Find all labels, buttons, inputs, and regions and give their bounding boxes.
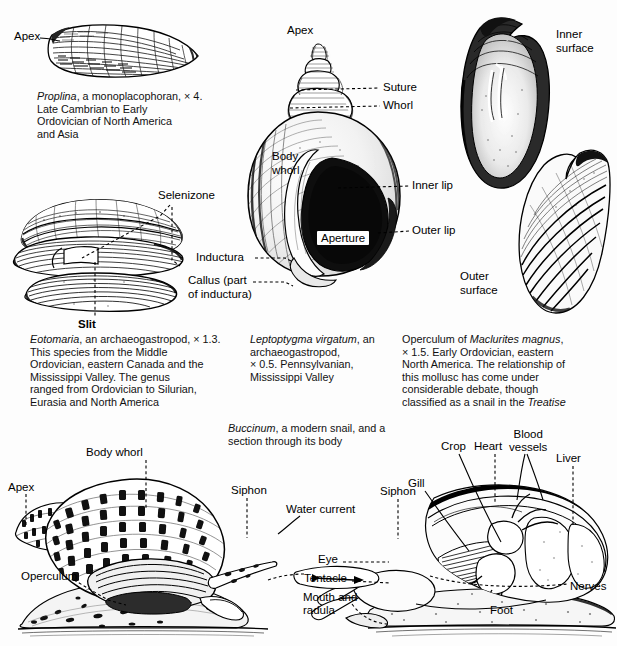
caption-maclurites-l1-pre: Operculum of [402, 333, 470, 345]
label-leptoptygma-apex: Apex [287, 24, 313, 37]
leader-tentacle [352, 577, 392, 587]
caption-leptoptygma-l3: × 0.5. Pennsylvanian, [250, 358, 400, 371]
leader-buccinum-siphon-left [242, 498, 252, 540]
caption-maclurites-l6-pre: classified as a snail in the [402, 396, 527, 408]
label-blood-vessels-l1: Blood [509, 428, 547, 441]
leader-suture [296, 84, 382, 92]
leader-whorl [290, 102, 382, 110]
label-buccinum-apex: Apex [8, 481, 34, 494]
label-mouth-radula: Mouth and radula [303, 591, 357, 617]
caption-eotomaria: Eotomaria, an archaeogastropod, × 1.3. T… [30, 333, 240, 409]
label-buccinum-body-whorl: Body whorl [86, 446, 143, 459]
label-body-whorl: Body whorl [272, 150, 299, 177]
leader-buccinum-body-whorl [140, 460, 152, 512]
label-blood-vessels: Blood vessels [509, 428, 547, 453]
caption-maclurites-l3: North America. The relationship of [402, 358, 617, 371]
proplina-illustration [8, 14, 208, 94]
label-suture: Suture [383, 81, 417, 94]
operculum-outer-illustration [510, 145, 617, 320]
label-body-whorl-l1: Body [272, 150, 299, 164]
label-callus-l2: of inductura) [188, 288, 252, 302]
caption-eotomaria-l3: Ordovician, eastern Canada and the [30, 358, 240, 371]
leader-selenizone [62, 200, 184, 276]
label-nerves: Nerves [570, 580, 606, 593]
label-tentacle: Tentacle [304, 572, 347, 585]
label-buccinum-operculum: Operculum [21, 570, 77, 583]
leader-slit [90, 262, 100, 318]
leader-inner-lip [338, 183, 412, 191]
label-heart: Heart [474, 440, 502, 453]
caption-maclurites-treatise: Treatise [527, 396, 565, 408]
caption-proplina: Proplina, a monoplacophoran, × 4. Late C… [37, 90, 252, 140]
label-buccinum-siphon-left: Siphon [231, 484, 267, 497]
figure-plate: Apex Proplina, a monoplacophoran, × 4. L… [0, 0, 617, 646]
caption-eotomaria-l5: ranged from Ordovician to Silurian, [30, 383, 240, 396]
label-proplina-apex: Apex [14, 30, 40, 43]
caption-eotomaria-l1-rest: , an archaeogastropod, × 1.3. [79, 333, 220, 345]
leader-outer-lip [378, 228, 412, 236]
label-gill: Gill [408, 477, 425, 490]
label-eye: Eye [318, 553, 338, 566]
caption-maclurites-l4: this mollusc has come under [402, 371, 617, 384]
leader-eye [343, 558, 391, 566]
leader-mouth-radula [352, 604, 392, 628]
caption-leptoptygma-l1-rest: , an [357, 333, 375, 345]
caption-buccinum: Buccinum, a modern snail, and a section … [228, 422, 448, 447]
leader-blood-vessels [515, 454, 547, 502]
caption-leptoptygma-species: Leptoptygma virgatum [250, 333, 357, 345]
label-crop: Crop [441, 440, 466, 453]
caption-eotomaria-l4: Mississippi Valley. The genus [30, 371, 240, 384]
caption-proplina-l2: Late Cambrian to Early [37, 103, 252, 116]
caption-maclurites-l1-post: , [560, 333, 563, 345]
label-callus: Callus (part of inductura) [188, 274, 252, 301]
caption-eotomaria-genus: Eotomaria [30, 333, 79, 345]
caption-buccinum-l1-rest: , a modern snail, and a [275, 422, 385, 434]
caption-eotomaria-l2: This species from the Middle [30, 346, 240, 359]
caption-leptoptygma-l2: archaeogastropod, [250, 346, 400, 359]
label-outer-lip: Outer lip [412, 224, 455, 237]
caption-proplina-l3: Ordovician of North America [37, 115, 252, 128]
label-inner-surface: Inner surface [556, 28, 594, 55]
label-inner-surface-l2: surface [556, 42, 594, 56]
leader-proplina-apex [40, 36, 62, 44]
caption-maclurites-l5: considerable debate, though [402, 383, 617, 396]
caption-buccinum-genus: Buccinum [228, 422, 275, 434]
leader-buccinum-operculum [74, 578, 130, 608]
leader-heart [490, 454, 500, 506]
label-outer-surface-l2: surface [460, 284, 498, 298]
label-liver: Liver [556, 452, 581, 465]
label-slit: Slit [78, 318, 96, 331]
label-mouth-radula-l2: radula [303, 604, 357, 617]
leader-callus [253, 278, 295, 288]
leader-section-siphon [393, 499, 403, 541]
leptoptygma-illustration [240, 38, 420, 318]
caption-leptoptygma-l4: Mississippi Valley [250, 371, 400, 384]
label-inner-surface-l1: Inner [556, 28, 594, 42]
caption-buccinum-l2: section through its body [228, 435, 448, 448]
label-outer-surface: Outer surface [460, 270, 498, 297]
label-inductura: Inductura [196, 251, 244, 264]
label-foot: Foot [490, 604, 513, 617]
caption-leptoptygma: Leptoptygma virgatum, an archaeogastropo… [250, 333, 400, 383]
caption-maclurites: Operculum of Maclurites magnus, × 1.5. E… [402, 333, 617, 409]
caption-proplina-l1-rest: , a monoplacophoran, × 4. [77, 90, 203, 102]
caption-maclurites-l2: × 1.5. Early Ordovician, eastern [402, 346, 617, 359]
label-outer-surface-l1: Outer [460, 270, 498, 284]
label-aperture: Aperture [317, 231, 369, 245]
label-callus-l1: Callus (part [188, 274, 252, 288]
leader-nerves [430, 572, 570, 592]
label-whorl: Whorl [383, 99, 413, 112]
label-body-whorl-l2: whorl [272, 164, 299, 178]
label-inner-lip: Inner lip [412, 179, 453, 192]
leader-inductura [255, 254, 293, 264]
leader-tentacle-left [268, 570, 306, 584]
caption-proplina-genus: Proplina [37, 90, 77, 102]
caption-maclurites-species: Maclurites magnus [470, 333, 561, 345]
caption-eotomaria-l6: Eurasia and North America [30, 396, 240, 409]
leader-liver [568, 466, 578, 528]
label-mouth-radula-l1: Mouth and [303, 591, 357, 604]
caption-proplina-l4: and Asia [37, 128, 252, 141]
leader-buccinum-apex [22, 494, 32, 528]
label-blood-vessels-l2: vessels [509, 441, 547, 454]
